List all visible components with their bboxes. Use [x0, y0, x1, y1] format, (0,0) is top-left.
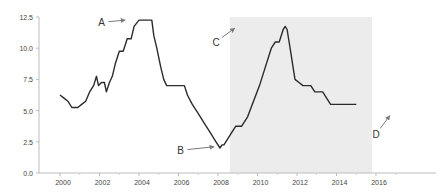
x-tick-label: 2008	[213, 179, 229, 186]
x-tick-label: 2000	[55, 179, 71, 186]
annotation-arrow-a	[108, 20, 125, 22]
x-tick-label: 2016	[371, 179, 387, 186]
annotation-label-c: C	[212, 37, 219, 48]
x-tick-label: 2002	[95, 179, 111, 186]
annotation-label-a: A	[98, 17, 105, 28]
annotation-label-b: B	[177, 145, 184, 156]
y-tick-label: 5.0	[23, 108, 33, 115]
annotation-arrow-d	[380, 116, 390, 129]
annotation-arrow-b	[187, 147, 214, 150]
line-chart: 0.02.55.07.510.012.520002002200420062008…	[0, 0, 448, 192]
shaded-period	[230, 17, 372, 173]
y-tick-label: 12.5	[19, 14, 33, 21]
y-tick-label: 7.5	[23, 76, 33, 83]
chart-canvas: 0.02.55.07.510.012.520002002200420062008…	[0, 0, 448, 192]
x-tick-label: 2004	[134, 179, 150, 186]
x-tick-label: 2012	[292, 179, 308, 186]
annotation-label-d: D	[372, 129, 379, 140]
y-tick-label: 2.5	[23, 139, 33, 146]
x-tick-label: 2006	[174, 179, 190, 186]
x-tick-label: 2010	[253, 179, 269, 186]
y-tick-label: 0.0	[23, 170, 33, 177]
axes: 0.02.55.07.510.012.520002002200420062008…	[19, 14, 436, 186]
y-tick-label: 10.0	[19, 45, 33, 52]
x-tick-label: 2014	[332, 179, 348, 186]
shaded-region	[230, 17, 372, 173]
